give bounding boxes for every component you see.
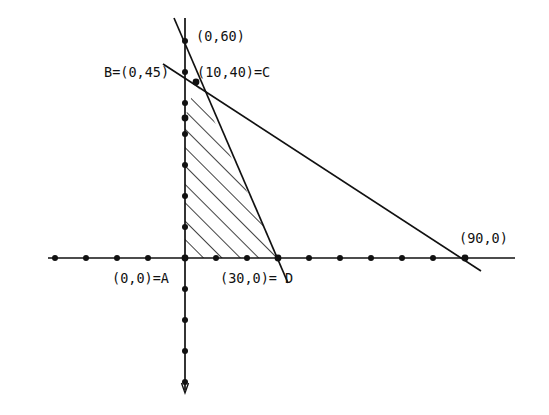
x-axis-tick-dot	[244, 255, 250, 261]
vertex-dot-90-0	[462, 255, 469, 262]
y-axis-tick-dot	[182, 69, 188, 75]
x-axis-tick-dot	[114, 255, 120, 261]
y-axis-tick-dot	[182, 286, 188, 292]
vertex-dot-a	[182, 255, 189, 262]
label-vertex-d: (30,0)= D	[220, 272, 293, 286]
linear-programming-figure: (0,60) B=(0,45) (10,40)=C (0,0)=A (30,0)…	[0, 0, 549, 415]
y-axis-tick-dot	[182, 379, 188, 385]
x-axis-tick-dot	[83, 255, 89, 261]
plot-canvas	[0, 0, 549, 415]
x-axis-tick-dot	[337, 255, 343, 261]
y-axis-tick-dot	[182, 193, 188, 199]
x-axis-tick-dot	[213, 255, 219, 261]
y-axis-tick-dot	[182, 162, 188, 168]
y-axis-tick-dot	[182, 317, 188, 323]
label-0-60: (0,60)	[196, 30, 245, 44]
x-axis-tick-dot	[52, 255, 58, 261]
label-90-0: (90,0)	[459, 232, 508, 246]
x-axis-tick-dot	[399, 255, 405, 261]
vertex-dot-b	[182, 115, 189, 122]
y-axis-tick-dot	[182, 224, 188, 230]
label-vertex-c: (10,40)=C	[197, 66, 270, 80]
y-axis-tick-dot	[182, 100, 188, 106]
y-axis-tick-dot	[182, 131, 188, 137]
x-axis-tick-dot	[145, 255, 151, 261]
vertex-dot-d	[275, 255, 282, 262]
y-axis-tick-dot	[182, 38, 188, 44]
label-vertex-a: (0,0)=A	[112, 272, 169, 286]
x-axis-tick-dot	[368, 255, 374, 261]
x-axis-tick-dot	[306, 255, 312, 261]
x-axis-tick-dot	[430, 255, 436, 261]
label-vertex-b: B=(0,45)	[104, 66, 169, 80]
y-axis-tick-dot	[182, 348, 188, 354]
